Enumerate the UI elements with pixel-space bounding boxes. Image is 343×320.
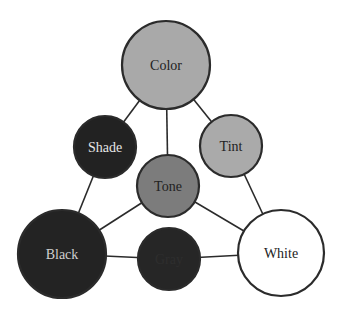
node-label-white: White [264, 246, 298, 261]
node-tone: Tone [137, 155, 199, 217]
node-white: White [238, 210, 324, 296]
node-label-tint: Tint [220, 139, 243, 154]
node-label-shade: Shade [88, 140, 122, 155]
nodes: ColorShadeTintToneBlackGrayWhite [18, 21, 324, 298]
node-color: Color [122, 21, 210, 109]
node-shade: Shade [74, 116, 136, 178]
color-theory-diagram: ColorShadeTintToneBlackGrayWhite [0, 0, 343, 320]
node-label-black: Black [46, 247, 79, 262]
node-label-gray: Gray [155, 252, 183, 267]
node-tint: Tint [200, 115, 262, 177]
node-black: Black [18, 210, 106, 298]
node-gray: Gray [138, 228, 200, 290]
node-label-color: Color [150, 58, 182, 73]
node-label-tone: Tone [154, 179, 182, 194]
